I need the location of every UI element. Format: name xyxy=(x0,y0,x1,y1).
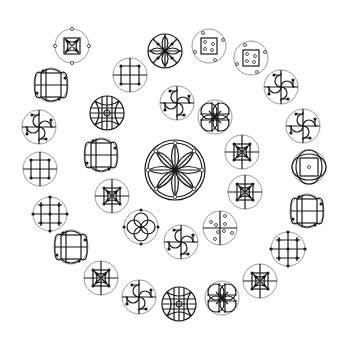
four-circle-flower-icon xyxy=(123,209,160,246)
flower-lattice-icon xyxy=(205,281,239,315)
eight-petal-star-icon xyxy=(148,34,182,68)
pinwheel-icon xyxy=(160,86,194,120)
pinwheel-icon xyxy=(286,109,320,143)
flower-lattice-icon xyxy=(198,100,232,134)
circle-rect-dot-icon xyxy=(292,150,326,184)
pinwheel-icon xyxy=(264,70,298,104)
rounded-knot-icon xyxy=(54,230,88,264)
square-with-dots-icon xyxy=(234,41,268,75)
square-petals-cross-icon xyxy=(243,264,277,298)
square-petals-cross-icon xyxy=(84,261,118,295)
rounded-knot-icon xyxy=(34,68,68,102)
rounded-knot-icon xyxy=(290,194,324,228)
pinwheel-icon xyxy=(164,225,198,259)
square-petals-cross-icon xyxy=(228,175,262,209)
eight-petal-rosette-icon xyxy=(145,140,205,200)
center-rosette xyxy=(145,140,205,200)
square-petals-dotted-ring-icon xyxy=(53,27,90,64)
rounded-knot-icon xyxy=(84,138,118,172)
pinwheel-icon xyxy=(22,110,56,144)
grid-square-icon xyxy=(113,58,147,92)
glyph-spiral-diagram xyxy=(0,0,345,346)
grid-dots-icon xyxy=(269,230,306,267)
square-with-dots-icon xyxy=(192,29,226,63)
grid-dots-icon xyxy=(31,195,68,232)
square-petals-cross-icon xyxy=(225,135,259,169)
grid-square-icon xyxy=(23,152,57,186)
pinwheel-icon xyxy=(122,280,156,314)
square-petals-cross-icon xyxy=(95,179,129,213)
lattice-icon xyxy=(162,287,196,321)
cross-scattered-dots-icon xyxy=(203,211,237,245)
lattice-icon xyxy=(90,96,124,130)
